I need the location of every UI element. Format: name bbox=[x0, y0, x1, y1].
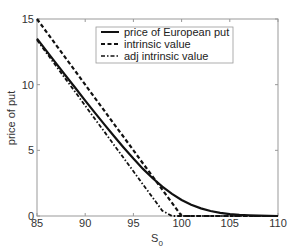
chart: 859095100105110051015 price of put S0 pr… bbox=[0, 0, 295, 252]
x-axis-label-main: S bbox=[151, 232, 158, 244]
x-tick-label: 100 bbox=[172, 217, 190, 229]
y-tick-label: 5 bbox=[28, 144, 34, 156]
legend-label-european-put: price of European put bbox=[124, 26, 229, 38]
legend: price of European put intrinsic value ad… bbox=[96, 26, 233, 63]
y-tick-label: 15 bbox=[22, 13, 34, 25]
x-tick-label: 110 bbox=[269, 217, 287, 229]
legend-label-adj-intrinsic: adj intrinsic value bbox=[124, 50, 208, 62]
x-tick-label: 90 bbox=[79, 217, 91, 229]
x-axis-label: S0 bbox=[151, 232, 163, 248]
x-tick-label: 95 bbox=[127, 217, 139, 229]
legend-label-intrinsic: intrinsic value bbox=[124, 38, 191, 50]
x-tick-label: 105 bbox=[221, 217, 239, 229]
y-tick-label: 0 bbox=[28, 210, 34, 222]
x-axis-label-subscript: 0 bbox=[158, 239, 163, 248]
y-axis-label: price of put bbox=[5, 91, 17, 145]
y-tick-label: 10 bbox=[22, 79, 34, 91]
